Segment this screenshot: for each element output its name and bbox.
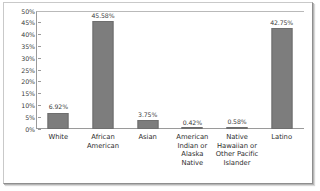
bar[interactable] (226, 127, 247, 129)
bar-group[interactable]: 0.58% (215, 11, 260, 129)
y-axis-tick-label: 50% (21, 7, 35, 16)
x-axis-category-label: Asian (125, 133, 170, 142)
bar-value-label: 3.75% (138, 111, 157, 119)
bar[interactable] (92, 21, 113, 129)
y-axis-tick-label: 0% (25, 125, 35, 134)
y-axis-tick-label: 25% (21, 66, 35, 75)
x-axis-category-label: American Indian or Alaska Native (170, 133, 215, 167)
bar-value-label: 0.42% (183, 119, 202, 127)
bar-value-label: 42.75% (270, 19, 293, 27)
x-axis-category-label: Native Hawaiian or Other Pacific Islande… (215, 133, 260, 167)
bar[interactable] (48, 113, 69, 129)
x-axis-category-label: White (36, 133, 81, 142)
bar[interactable] (271, 28, 292, 129)
y-axis-tick-label: 40% (21, 30, 35, 39)
bar-value-label: 0.58% (227, 118, 246, 126)
y-axis-tick-label: 45% (21, 18, 35, 27)
bar-group[interactable]: 45.58% (81, 11, 126, 129)
x-axis-category-label: Latino (259, 133, 304, 142)
bar[interactable] (137, 120, 158, 129)
y-axis-tick-label: 35% (21, 42, 35, 51)
bar-value-label: 6.92% (49, 103, 68, 111)
chart-frame: 50%45%40%35%30%25%20%15%10%5%0% 6.92%45.… (3, 2, 313, 184)
bar-group[interactable]: 3.75% (125, 11, 170, 129)
y-axis-tick-label: 5% (25, 113, 35, 122)
bar-value-label: 45.58% (91, 12, 114, 20)
bar-group[interactable]: 42.75% (259, 11, 304, 129)
bar[interactable] (182, 127, 203, 129)
y-axis-tick-label: 20% (21, 77, 35, 86)
y-axis-tick-label: 15% (21, 89, 35, 98)
y-axis-tick-label: 10% (21, 101, 35, 110)
bar-group[interactable]: 6.92% (36, 11, 81, 129)
bar-group[interactable]: 0.42% (170, 11, 215, 129)
x-axis-category-label: African American (81, 133, 126, 150)
y-axis-tick-label: 30% (21, 54, 35, 63)
chart-canvas: 50%45%40%35%30%25%20%15%10%5%0% 6.92%45.… (5, 4, 311, 182)
